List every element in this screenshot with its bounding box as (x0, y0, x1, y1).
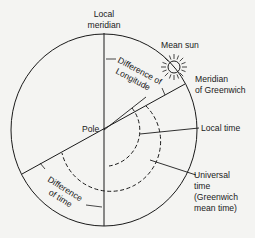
mean-sun-label: Mean sun (161, 40, 199, 50)
mean-sun-hour-line (104, 97, 146, 130)
local-time-leader (140, 128, 199, 134)
universal-time-label-4: mean time) (194, 203, 237, 213)
local-time-arc (109, 108, 140, 166)
diagram-canvas: Local meridian Mean sun Meridian of Gree… (0, 0, 255, 238)
time-difference-arrow-left (40, 163, 45, 169)
universal-time-label-3: (Greenwich (194, 192, 238, 202)
longitude-arrow-right (162, 88, 165, 95)
universal-time-label-2: time (194, 181, 210, 191)
universal-time-label: Universal (194, 170, 230, 180)
greenwich-label: Meridian (195, 74, 228, 84)
local-meridian-label: Local (94, 9, 115, 19)
greenwich-label-2: of Greenwich (195, 85, 246, 95)
universal-time-arc (62, 106, 161, 191)
time-diagram: Local meridian Mean sun Meridian of Gree… (0, 0, 255, 238)
pole-label: Pole (82, 124, 99, 134)
time-difference-arrow-right (86, 205, 102, 207)
local-meridian-label-2: meridian (88, 20, 121, 30)
local-time-label: Local time (201, 123, 240, 133)
